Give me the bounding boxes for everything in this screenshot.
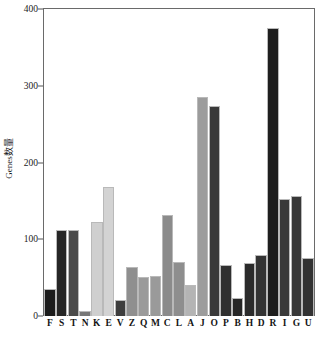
x-tick-label: Q bbox=[140, 318, 147, 328]
x-tick-label: O bbox=[211, 318, 218, 328]
x-tick-label: G bbox=[293, 318, 300, 328]
bar-chart: Genes数量 0100200300400 FSTNKEVZQMCLAJOPBH… bbox=[0, 0, 322, 344]
bar bbox=[173, 262, 184, 316]
y-tick-label: 400 bbox=[12, 4, 38, 14]
bar bbox=[138, 277, 149, 316]
bar bbox=[291, 196, 302, 316]
bar bbox=[103, 187, 114, 316]
bar bbox=[232, 298, 243, 316]
y-tick-label: 0 bbox=[12, 311, 38, 321]
x-tick-label: R bbox=[269, 318, 276, 328]
bar bbox=[255, 255, 266, 316]
bar bbox=[150, 276, 161, 316]
bar bbox=[79, 311, 90, 316]
bar bbox=[115, 300, 126, 316]
bar bbox=[220, 265, 231, 316]
y-tick-mark bbox=[38, 85, 43, 86]
bar bbox=[56, 230, 67, 316]
x-tick-label: N bbox=[82, 318, 89, 328]
x-tick-label: A bbox=[187, 318, 194, 328]
x-tick-label: D bbox=[258, 318, 265, 328]
x-tick-label: B bbox=[235, 318, 241, 328]
x-tick-label: U bbox=[305, 318, 312, 328]
bar bbox=[162, 215, 173, 316]
y-axis-tick-labels: 0100200300400 bbox=[0, 0, 38, 344]
y-tick-mark bbox=[38, 9, 43, 10]
x-tick-label: C bbox=[164, 318, 171, 328]
x-tick-label: F bbox=[47, 318, 53, 328]
x-tick-label: S bbox=[59, 318, 64, 328]
x-tick-label: I bbox=[283, 318, 287, 328]
y-tick-label: 200 bbox=[12, 158, 38, 168]
y-tick-label: 300 bbox=[12, 81, 38, 91]
x-tick-label: E bbox=[105, 318, 111, 328]
y-tick-mark bbox=[38, 316, 43, 317]
x-tick-label: J bbox=[200, 318, 205, 328]
bar bbox=[185, 285, 196, 316]
y-tick-label: 100 bbox=[12, 234, 38, 244]
bars-container bbox=[44, 9, 314, 316]
bar bbox=[91, 222, 102, 316]
x-tick-label: T bbox=[70, 318, 76, 328]
bar bbox=[68, 230, 79, 316]
x-tick-label: Z bbox=[129, 318, 135, 328]
bar bbox=[267, 28, 278, 316]
x-tick-label: H bbox=[246, 318, 253, 328]
x-tick-label: K bbox=[93, 318, 100, 328]
y-tick-mark bbox=[38, 239, 43, 240]
x-axis-tick-labels: FSTNKEVZQMCLAJOPBHDRIGU bbox=[44, 318, 314, 338]
x-tick-label: L bbox=[176, 318, 182, 328]
bar bbox=[302, 258, 313, 316]
bar bbox=[279, 199, 290, 316]
x-tick-label: M bbox=[151, 318, 160, 328]
x-tick-label: P bbox=[223, 318, 229, 328]
y-tick-mark bbox=[38, 162, 43, 163]
x-tick-label: V bbox=[117, 318, 124, 328]
bar bbox=[126, 267, 137, 316]
bar bbox=[197, 97, 208, 316]
bar bbox=[209, 106, 220, 316]
bar bbox=[44, 289, 55, 316]
bar bbox=[244, 263, 255, 316]
